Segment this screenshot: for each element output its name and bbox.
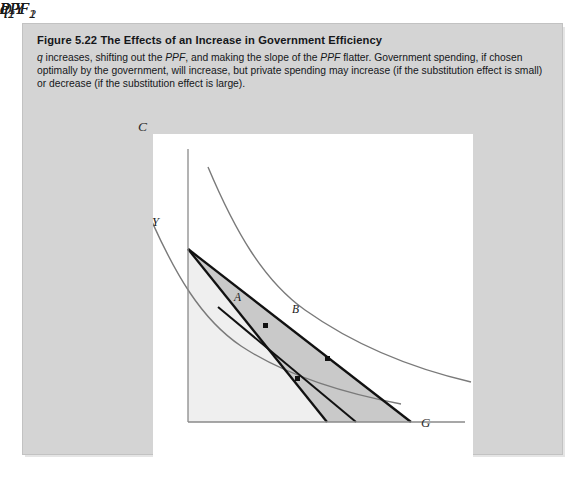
axis-label-g: G — [421, 415, 430, 431]
figure-box: Figure 5.22 The Effects of an Increase i… — [22, 23, 563, 455]
caption-var-ppf-1: PPF — [165, 52, 185, 63]
caption-var-ppf-2: PPF — [320, 52, 340, 63]
caption-text-1: increases, shifting out the — [43, 52, 166, 63]
label-ppf2-sub: 2 — [29, 6, 36, 21]
caption-text-2: , and making the slope of the — [185, 52, 320, 63]
label-point-b: B — [292, 303, 299, 315]
figure-title: The Effects of an Increase in Government… — [100, 34, 382, 46]
label-q2y-text: q — [0, 0, 8, 17]
point-marker-A — [263, 323, 268, 328]
label-q2y-sub: 2 — [8, 6, 15, 21]
label-q2y-suffix: Y — [15, 0, 24, 17]
label-point-a: A — [234, 291, 241, 303]
figure-caption-body: q increases, shifting out the PPF, and m… — [37, 51, 549, 91]
figure-caption: Figure 5.22 The Effects of an Increase i… — [37, 33, 549, 91]
label-y-intercept: Y — [152, 215, 159, 230]
figure-caption-title: Figure 5.22 The Effects of an Increase i… — [37, 33, 549, 48]
figure-number: Figure 5.22 — [37, 34, 97, 46]
label-q2y: q2Y — [0, 0, 24, 22]
axis-label-c: C — [138, 119, 147, 135]
figure-screenshot: Figure 5.22 The Effects of an Increase i… — [0, 0, 585, 483]
point-marker-B — [325, 356, 330, 361]
point-marker-D — [295, 376, 300, 381]
